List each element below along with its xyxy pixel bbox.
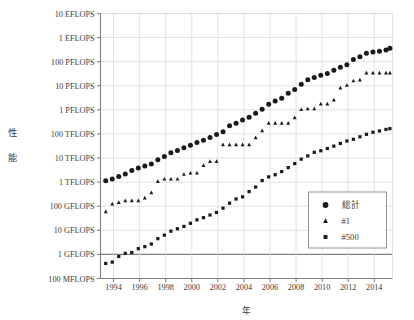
- data-point-marker: [312, 75, 317, 80]
- x-axis-title: 年: [242, 305, 251, 316]
- data-point-marker: [247, 190, 250, 193]
- data-point-marker: [339, 142, 342, 145]
- data-point-marker: [188, 143, 193, 148]
- x-axis-tick-label: 2014: [366, 283, 382, 292]
- data-point-marker: [124, 252, 127, 255]
- data-point-marker: [299, 107, 303, 111]
- data-point-marker: [221, 143, 225, 147]
- data-point-marker: [370, 50, 375, 55]
- data-point-marker: [371, 131, 374, 134]
- data-point-marker: [201, 138, 206, 143]
- data-point-marker: [365, 133, 368, 136]
- data-point-marker: [175, 177, 179, 181]
- data-point-marker: [299, 82, 304, 87]
- data-point-marker: [378, 71, 382, 75]
- data-point-marker: [293, 162, 296, 165]
- data-point-marker: [149, 161, 154, 166]
- top500-performance-chart: 10 EFLOPS1 EFLOPS100 PFLOPS10 PFLOPS1 PF…: [0, 0, 414, 320]
- data-point-marker: [117, 200, 121, 204]
- y-axis-tick-label: 100 MFLOPS: [48, 275, 95, 284]
- data-point-marker: [176, 227, 179, 230]
- chart-container: 10 EFLOPS1 EFLOPS100 PFLOPS10 PFLOPS1 PF…: [0, 0, 414, 320]
- data-point-marker: [117, 255, 120, 258]
- data-point-marker: [384, 128, 387, 131]
- data-point-marker: [169, 177, 173, 181]
- data-point-marker: [273, 99, 278, 104]
- data-point-marker: [175, 148, 180, 153]
- data-point-marker: [221, 129, 226, 134]
- y-axis-title-char: 性: [8, 127, 17, 138]
- data-point-marker: [155, 157, 160, 162]
- data-point-marker: [306, 107, 310, 111]
- data-point-marker: [254, 185, 257, 188]
- data-point-marker: [240, 118, 245, 123]
- data-series: [103, 46, 392, 184]
- data-point-marker: [228, 143, 232, 147]
- data-point-marker: [156, 179, 160, 183]
- x-axis-tick-label: 2010: [314, 283, 330, 292]
- data-point-marker: [227, 123, 232, 128]
- x-axis-tick-labels: 1994199619982000200220042006200820102012…: [105, 279, 382, 293]
- data-point-marker: [292, 87, 297, 92]
- data-point-marker: [104, 210, 108, 214]
- x-axis-tick-label: 1994: [105, 283, 121, 292]
- data-point-marker: [261, 179, 264, 182]
- data-point-marker: [378, 129, 381, 132]
- data-point-marker: [274, 173, 277, 176]
- data-point-marker: [247, 115, 252, 120]
- x-axis-tick-label: 2000: [184, 283, 200, 292]
- data-point-marker: [123, 171, 128, 176]
- x-axis-tick-label: 1996: [131, 283, 147, 292]
- data-point-marker: [338, 65, 343, 70]
- x-axis-tick-label: 1998: [157, 283, 173, 292]
- data-point-marker: [325, 102, 329, 106]
- x-axis-tick-label: 2002: [210, 283, 226, 292]
- data-point-marker: [110, 176, 115, 181]
- data-point-marker: [305, 77, 310, 82]
- data-point-marker: [194, 140, 199, 145]
- data-point-marker: [313, 151, 316, 154]
- data-point-marker: [388, 71, 392, 75]
- data-point-marker: [358, 78, 362, 82]
- data-point-marker: [364, 51, 369, 56]
- y-axis-tick-label: 10 GFLOPS: [54, 226, 95, 235]
- data-point-marker: [169, 230, 172, 233]
- y-axis-tick-label: 10 EFLOPS: [55, 10, 95, 19]
- x-axis-tick-label: 2004: [236, 283, 252, 292]
- legend-label: #1: [342, 216, 351, 226]
- x-axis-tick-label: 2012: [340, 283, 356, 292]
- data-point-marker: [247, 143, 251, 147]
- data-point-marker: [260, 129, 264, 133]
- y-axis-tick-label: 1 EFLOPS: [59, 34, 95, 43]
- data-point-marker: [345, 139, 348, 142]
- data-point-marker: [338, 86, 342, 90]
- x-axis-tick-label: 2006: [262, 283, 278, 292]
- chart-legend: 総計#1#500: [309, 192, 387, 248]
- data-point-marker: [241, 195, 244, 198]
- y-axis-tick-labels: 10 EFLOPS1 EFLOPS100 PFLOPS10 PFLOPS1 PF…: [48, 10, 100, 284]
- data-point-marker: [129, 168, 134, 173]
- data-point-marker: [377, 49, 382, 54]
- data-point-marker: [195, 218, 198, 221]
- data-point-marker: [221, 207, 224, 210]
- data-point-marker: [325, 71, 330, 76]
- y-axis-tick-label: 1 GFLOPS: [58, 250, 95, 259]
- y-axis-tick-label: 10 TFLOPS: [55, 154, 95, 163]
- data-point-marker: [189, 222, 192, 225]
- data-point-marker: [253, 111, 258, 116]
- data-point-marker: [280, 170, 283, 173]
- data-point-marker: [103, 178, 108, 183]
- data-point-marker: [384, 71, 388, 75]
- data-point-marker: [202, 216, 205, 219]
- data-point-marker: [116, 174, 121, 179]
- data-point-marker: [123, 199, 127, 203]
- data-point-marker: [142, 164, 147, 169]
- data-point-marker: [388, 127, 391, 130]
- y-axis-tick-label: 10 PFLOPS: [55, 82, 95, 91]
- data-point-marker: [168, 150, 173, 155]
- data-point-marker: [104, 262, 107, 265]
- data-point-marker: [234, 197, 237, 200]
- data-point-marker: [195, 171, 199, 175]
- data-point-marker: [130, 251, 133, 254]
- data-point-marker: [312, 107, 316, 111]
